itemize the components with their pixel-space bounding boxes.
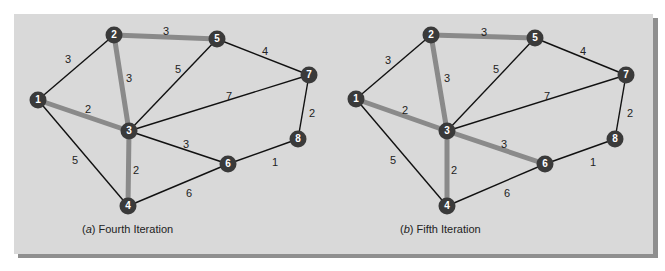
edge-6-8 bbox=[545, 139, 615, 164]
node-label: 5 bbox=[532, 32, 538, 43]
caption-text: Fifth Iteration bbox=[417, 223, 481, 235]
node-2: 2 bbox=[106, 27, 123, 44]
node-4: 4 bbox=[120, 198, 137, 215]
node-7: 7 bbox=[618, 67, 635, 84]
node-label: 4 bbox=[125, 200, 131, 211]
node-7: 7 bbox=[301, 67, 318, 84]
node-2: 2 bbox=[423, 27, 440, 44]
edge-weight-1-4: 5 bbox=[390, 154, 396, 166]
node-label: 1 bbox=[35, 94, 41, 105]
edge-weight-3-6: 3 bbox=[183, 138, 189, 150]
node-6: 6 bbox=[220, 156, 237, 173]
edge-weight-2-5: 3 bbox=[481, 26, 487, 38]
edge-7-8 bbox=[615, 75, 626, 139]
node-label: 2 bbox=[428, 29, 434, 40]
edge-weight-3-6: 3 bbox=[501, 138, 507, 150]
edge-weight-3-4: 2 bbox=[451, 164, 457, 176]
edge-weight-1-3: 2 bbox=[402, 104, 408, 116]
node-8: 8 bbox=[607, 131, 624, 148]
edge-weight-3-5: 5 bbox=[493, 63, 499, 75]
edge-3-6 bbox=[129, 131, 228, 164]
edge-weight-7-8: 2 bbox=[627, 107, 633, 119]
edge-4-6 bbox=[128, 164, 228, 206]
node-3: 3 bbox=[439, 123, 456, 140]
graph-fourth-iteration: 325335723421612345678 bbox=[30, 25, 318, 215]
node-label: 6 bbox=[542, 158, 548, 169]
caption-fifth-iteration: (b) Fifth Iteration bbox=[400, 223, 481, 235]
edge-weight-4-6: 6 bbox=[186, 187, 192, 199]
node-6: 6 bbox=[537, 156, 554, 173]
node-label: 7 bbox=[623, 69, 629, 80]
edge-weight-6-8: 1 bbox=[590, 156, 596, 168]
edge-1-2 bbox=[38, 35, 114, 100]
edge-weight-3-7: 7 bbox=[544, 90, 550, 102]
edge-weight-5-7: 4 bbox=[262, 45, 268, 57]
caption-letter: a bbox=[86, 223, 92, 235]
caption-fourth-iteration: (a) Fourth Iteration bbox=[82, 223, 173, 235]
edge-weight-3-7: 7 bbox=[226, 90, 232, 102]
edge-weight-1-2: 3 bbox=[65, 53, 71, 65]
edge-weight-1-4: 5 bbox=[72, 154, 78, 166]
node-5: 5 bbox=[527, 30, 544, 47]
edge-1-2 bbox=[356, 35, 431, 99]
edge-3-4-tree bbox=[128, 131, 129, 206]
node-label: 6 bbox=[225, 158, 231, 169]
node-label: 3 bbox=[444, 125, 450, 136]
node-label: 7 bbox=[306, 69, 312, 80]
edge-weight-1-3: 2 bbox=[85, 103, 91, 115]
edge-7-8 bbox=[298, 75, 309, 139]
edge-weight-7-8: 2 bbox=[309, 107, 315, 119]
edge-6-8 bbox=[228, 139, 298, 164]
caption-letter: b bbox=[404, 223, 410, 235]
node-1: 1 bbox=[348, 91, 365, 108]
node-3: 3 bbox=[121, 123, 138, 140]
edge-weight-3-4: 2 bbox=[133, 164, 139, 176]
node-label: 3 bbox=[126, 125, 132, 136]
node-label: 2 bbox=[111, 29, 117, 40]
node-label: 5 bbox=[214, 33, 220, 44]
node-label: 4 bbox=[444, 200, 450, 211]
edge-weight-2-5: 3 bbox=[163, 25, 169, 37]
node-1: 1 bbox=[30, 92, 47, 109]
graph-fifth-iteration: 325335723421612345678 bbox=[348, 26, 635, 215]
edge-weight-6-8: 1 bbox=[272, 156, 278, 168]
node-label: 1 bbox=[353, 93, 359, 104]
node-5: 5 bbox=[209, 31, 226, 48]
edge-4-6 bbox=[447, 164, 545, 206]
node-8: 8 bbox=[290, 131, 307, 148]
node-4: 4 bbox=[439, 198, 456, 215]
edge-weight-3-5: 5 bbox=[175, 63, 181, 75]
edge-weight-2-3: 3 bbox=[444, 72, 450, 84]
edge-weight-1-2: 3 bbox=[385, 54, 391, 66]
edge-weight-4-6: 6 bbox=[504, 187, 510, 199]
edge-weight-2-3: 3 bbox=[126, 72, 132, 84]
caption-text: Fourth Iteration bbox=[99, 223, 174, 235]
edge-3-6-tree bbox=[447, 131, 545, 164]
edge-weight-5-7: 4 bbox=[580, 45, 586, 57]
node-label: 8 bbox=[295, 133, 301, 144]
node-label: 8 bbox=[612, 133, 618, 144]
